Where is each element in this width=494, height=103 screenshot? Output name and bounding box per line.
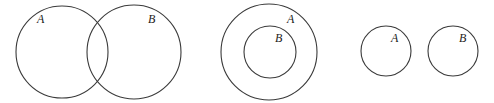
label-b: B: [275, 31, 283, 45]
circle-a: [361, 26, 411, 76]
circle-a: [221, 4, 317, 100]
label-a: A: [36, 12, 45, 26]
circle-b: [244, 26, 296, 78]
label-b: B: [148, 12, 156, 26]
circle-b: [428, 26, 478, 76]
venn-diagrams: A B A B A B: [0, 0, 494, 103]
diagram-subset: A B: [221, 4, 317, 100]
diagram-disjoint: A B: [361, 26, 478, 76]
circle-b: [87, 5, 181, 99]
label-b: B: [459, 31, 467, 45]
diagram-overlapping: A B: [16, 5, 181, 99]
label-a: A: [390, 31, 399, 45]
circle-a: [16, 6, 108, 98]
label-a: A: [286, 12, 295, 26]
